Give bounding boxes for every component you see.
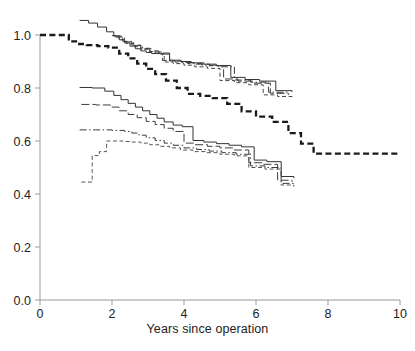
y-tick-label: 0.6 — [14, 135, 31, 149]
x-tick-label: 0 — [37, 307, 44, 321]
x-axis-title: Years since operation — [0, 322, 415, 336]
axis-layer — [35, 35, 400, 305]
y-tick-label: 0.4 — [14, 188, 31, 202]
x-tick-label: 10 — [393, 307, 407, 321]
x-tick-label: 8 — [325, 307, 332, 321]
y-tick-label: 0.0 — [14, 294, 31, 308]
y-tick-label: 0.2 — [14, 241, 31, 255]
series-lower-group-solid — [80, 87, 294, 178]
series-upper-group-solid — [80, 20, 292, 92]
y-tick-label: 1.0 — [14, 29, 31, 43]
x-tick-label: 4 — [181, 307, 188, 321]
x-tick-label: 6 — [253, 307, 260, 321]
series-bold-dashed-curve — [40, 35, 400, 154]
series-upper-group-longdash — [114, 36, 289, 95]
x-tick-label: 2 — [109, 307, 116, 321]
series-upper-group-dashdot — [116, 37, 289, 94]
series-lower-group-dashdot — [80, 130, 294, 185]
survival-curve-figure: 0.00.20.40.60.81.00246810 Years since op… — [0, 0, 415, 351]
y-tick-label: 0.8 — [14, 82, 31, 96]
series-layer — [40, 20, 400, 186]
plot-canvas: 0.00.20.40.60.81.00246810 — [0, 0, 415, 351]
tick-label-layer: 0.00.20.40.60.81.00246810 — [14, 29, 407, 322]
